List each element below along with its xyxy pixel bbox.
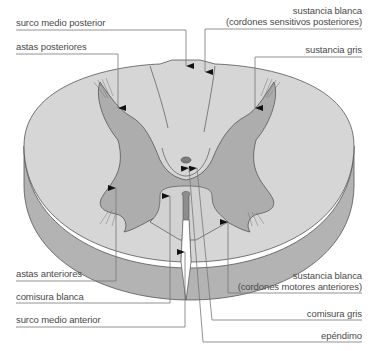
label-surco-medio-posterior: surco medio posterior [16, 17, 105, 28]
label-astas-posteriores: astas posteriores [16, 41, 87, 52]
label-sustancia-blanca-anterior: sustancia blanca (cordones motores anter… [238, 270, 362, 292]
label-line1: sustancia blanca [226, 5, 362, 16]
label-line2: (cordones sensitivos posteriores) [226, 16, 362, 27]
label-sustancia-blanca-posterior: sustancia blanca (cordones sensitivos po… [226, 5, 362, 27]
label-line1: sustancia blanca [238, 270, 362, 281]
label-ependimo: epéndimo [321, 330, 362, 341]
label-surco-medio-anterior: surco medio anterior [16, 314, 101, 325]
label-comisura-blanca: comisura blanca [16, 291, 84, 302]
label-astas-anteriores: astas anteriores [16, 268, 82, 279]
label-line2: (cordones motores anteriores) [238, 281, 362, 292]
label-comisura-gris: comisura gris [307, 308, 362, 319]
spinal-cord-diagram: surco medio posterior astas posteriores … [0, 0, 378, 351]
ependymal-canal [181, 157, 191, 163]
label-sustancia-gris: sustancia gris [305, 44, 362, 55]
